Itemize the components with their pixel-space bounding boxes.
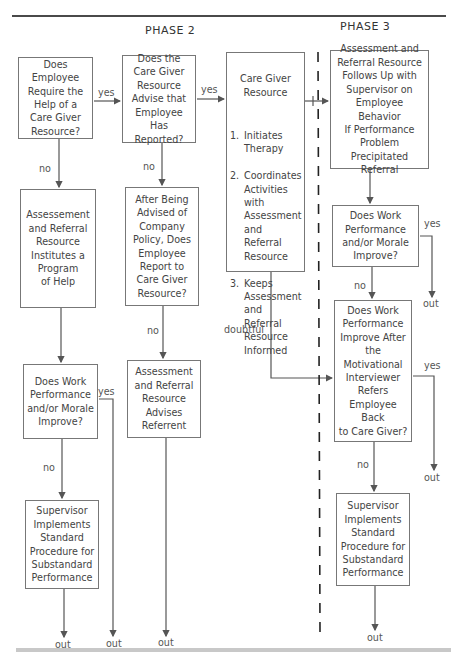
care-giver-title: Care Giver Resource	[230, 72, 301, 99]
label-no: no	[354, 280, 366, 291]
item-text: Keeps Assessment and Referral Resource I…	[244, 277, 302, 357]
label-yes: yes	[424, 218, 441, 229]
label-out: out	[367, 632, 383, 643]
box-institutes-program: Assessement and Referral Resource Instit…	[20, 189, 96, 308]
label-yes: yes	[98, 87, 115, 98]
care-giver-item: 1.Initiates Therapy	[230, 129, 301, 156]
box-after-advised: After Being Advised of Company Policy, D…	[125, 187, 199, 306]
care-giver-item: 2.Coordinates Activities with Assessment…	[230, 169, 301, 263]
label-out: out	[423, 298, 439, 309]
label-yes: yes	[98, 386, 115, 397]
item-number: 1.	[230, 129, 244, 156]
box-care-giver-advise: Does the Care Giver Resource Advise that…	[122, 55, 196, 143]
label-no: no	[147, 325, 159, 336]
box-supervisor-phase2: Supervisor Implements Standard Procedure…	[25, 500, 99, 589]
box-supervisor-phase3: Supervisor Implements Standard Procedure…	[336, 493, 410, 586]
item-number: 2.	[230, 169, 244, 263]
care-giver-item: 3.Keeps Assessment and Referral Resource…	[230, 277, 301, 357]
box-work-improve-phase3: Does Work Performance and/or Morale Impr…	[332, 205, 419, 267]
box-advises-referrent: Assessment and Referral Resource Advises…	[127, 360, 201, 438]
label-no: no	[43, 462, 55, 473]
label-out: out	[424, 472, 440, 483]
label-out: out	[158, 637, 174, 648]
label-no: no	[357, 459, 369, 470]
item-text: Coordinates Activities with Assessment a…	[244, 169, 302, 263]
label-yes: yes	[201, 84, 218, 95]
box-follows-up: Assessment and Referral Resource Follows…	[330, 50, 429, 169]
label-no: no	[39, 163, 51, 174]
box-work-improve-phase2: Does Work Performance and/or Morale Impr…	[23, 364, 98, 439]
bottom-rule	[16, 648, 451, 652]
box-motivational-interviewer: Does Work Performance Improve After the …	[334, 300, 412, 442]
item-text: Initiates Therapy	[244, 129, 301, 156]
box-require-help: Does Employee Require the Help of a Care…	[18, 57, 93, 139]
box-care-giver-resource: Care Giver Resource 1.Initiates Therapy …	[226, 52, 305, 272]
label-yes: yes	[424, 360, 441, 371]
label-doubtful: doubtful	[224, 324, 264, 335]
item-number: 3.	[230, 277, 244, 357]
label-no: no	[143, 161, 155, 172]
